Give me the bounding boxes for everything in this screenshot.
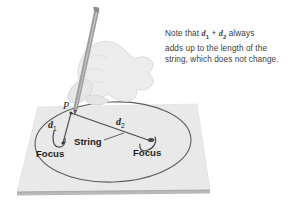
focus-right-point xyxy=(148,138,154,142)
hand-lower-fold xyxy=(86,95,109,105)
callout-note: Note that d1 + d2 always adds up to the … xyxy=(165,28,306,65)
callout-line1-suffix: always xyxy=(226,29,254,38)
ellipse-construction-figure: Note that d1 + d2 always adds up to the … xyxy=(0,0,306,207)
hand-illustration xyxy=(68,41,153,105)
focus-left-label: Focus xyxy=(36,148,64,159)
callout-line2: adds up to the length of the xyxy=(165,44,267,53)
point-p-marker xyxy=(70,112,73,115)
point-p-label: P xyxy=(63,100,69,111)
d2-label: d2 xyxy=(116,116,125,129)
callout-line3: string, which does not change. xyxy=(165,55,279,64)
callout-var-d1: d1 xyxy=(202,29,210,38)
d1-label: d1 xyxy=(48,119,57,132)
callout-line1-prefix: Note that xyxy=(165,29,202,38)
focus-left-point xyxy=(61,141,64,144)
focus-right-label: Focus xyxy=(133,147,161,158)
callout-plus: + xyxy=(209,29,219,38)
pencil-eraser xyxy=(94,7,99,12)
string-label: String xyxy=(74,136,102,147)
